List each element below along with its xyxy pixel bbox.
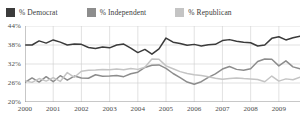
- x-tick-label: 2006: [187, 105, 201, 113]
- x-axis-labels: 2000200120022003200420052006200720082009: [25, 105, 300, 119]
- y-tick-label: 38%: [8, 41, 21, 49]
- y-tick-label: 44%: [8, 22, 21, 30]
- y-axis-labels: 44%38%32%26%20%: [0, 26, 23, 102]
- plot-area: [25, 26, 300, 102]
- chart-legend: % Democrat % Independent % Republican: [0, 4, 305, 20]
- x-tick-label: 2003: [102, 105, 116, 113]
- x-tick-label: 2004: [131, 105, 145, 113]
- x-tick-label: 2000: [18, 105, 32, 113]
- plot-svg: [25, 26, 300, 102]
- legend-item-independent[interactable]: % Independent: [87, 8, 147, 17]
- legend-label-independent: % Independent: [100, 8, 147, 17]
- legend-swatch-republican: [175, 8, 184, 17]
- x-tick-label: 2005: [159, 105, 173, 113]
- x-tick-label: 2002: [74, 105, 88, 113]
- legend-swatch-democrat: [6, 8, 15, 17]
- y-tick-label: 26%: [8, 79, 21, 87]
- data-lines: [25, 36, 300, 84]
- legend-label-republican: % Republican: [188, 8, 231, 17]
- x-tick-label: 2001: [46, 105, 60, 113]
- x-tick-label: 2008: [243, 105, 257, 113]
- legend-item-republican[interactable]: % Republican: [175, 8, 231, 17]
- y-tick-label: 32%: [8, 60, 21, 68]
- legend-label-democrat: % Democrat: [19, 8, 58, 17]
- x-tick-label: 2007: [215, 105, 229, 113]
- legend-swatch-independent: [87, 8, 96, 17]
- x-tick-label: 2009: [272, 105, 286, 113]
- grid-lines: [25, 26, 300, 102]
- party-identification-line-chart: % Democrat % Independent % Republican 44…: [0, 0, 305, 128]
- legend-item-democrat[interactable]: % Democrat: [6, 8, 58, 17]
